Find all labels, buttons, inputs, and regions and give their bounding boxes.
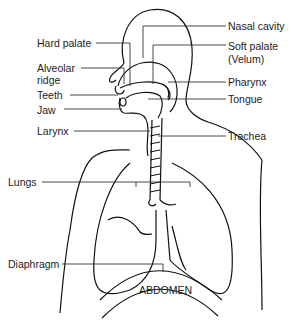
label-pharynx: Pharynx <box>228 76 267 88</box>
leader-diaphragm <box>62 264 163 272</box>
label-alveolar-ridge-line1: Alveolar <box>37 62 75 74</box>
label-trachea: Trachea <box>228 130 266 142</box>
leader-hard-palate <box>96 43 130 86</box>
label-nasal-cavity: Nasal cavity <box>228 20 285 32</box>
leader-nasal-cavity <box>143 26 226 58</box>
label-alveolar-ridge-line2: ridge <box>37 74 60 86</box>
label-diaphragm: Diaphragm <box>8 258 59 270</box>
label-hard-palate: Hard palate <box>37 37 91 49</box>
label-soft-palate-line2: (Velum) <box>228 53 264 65</box>
leader-alveolar-ridge <box>81 68 124 84</box>
label-lungs: Lungs <box>8 176 37 188</box>
label-jaw: Jaw <box>37 104 56 116</box>
label-soft-palate-line1: Soft palate <box>228 40 278 52</box>
label-abdomen: ABDOMEN <box>139 284 192 296</box>
label-larynx: Larynx <box>37 125 69 137</box>
leader-lungs <box>42 182 190 187</box>
label-teeth: Teeth <box>37 89 63 101</box>
label-tongue: Tongue <box>228 93 262 105</box>
leader-soft-palate <box>153 45 226 84</box>
